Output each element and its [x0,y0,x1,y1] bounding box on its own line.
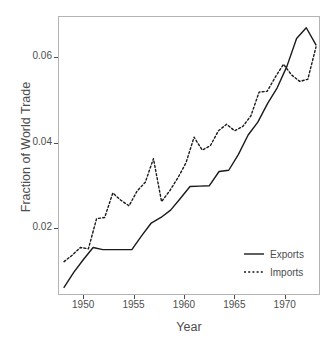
x-tick-mark [184,295,185,299]
y-axis-title: Fraction of World Trade [19,37,33,257]
legend-label: Exports [265,249,304,260]
legend-line-icon [243,266,265,278]
chart-container: 0.020.040.06 19501955196019651970 Fracti… [0,0,335,346]
x-tick-mark [285,295,286,299]
legend-item-exports[interactable]: Exports [243,245,315,263]
x-tick-label: 1950 [63,299,103,310]
x-tick-mark [83,295,84,299]
legend-label: Imports [265,267,303,278]
x-tick-label: 1960 [164,299,204,310]
x-tick-label: 1970 [265,299,305,310]
legend-line-icon [243,248,265,260]
x-tick-label: 1965 [214,299,254,310]
x-tick-label: 1955 [114,299,154,310]
x-tick-mark [134,295,135,299]
series-line-imports [64,47,316,262]
legend-item-imports[interactable]: Imports [243,263,315,281]
chart-legend: ExportsImports [243,245,315,281]
x-tick-mark [234,295,235,299]
x-axis-title: Year [58,320,320,334]
